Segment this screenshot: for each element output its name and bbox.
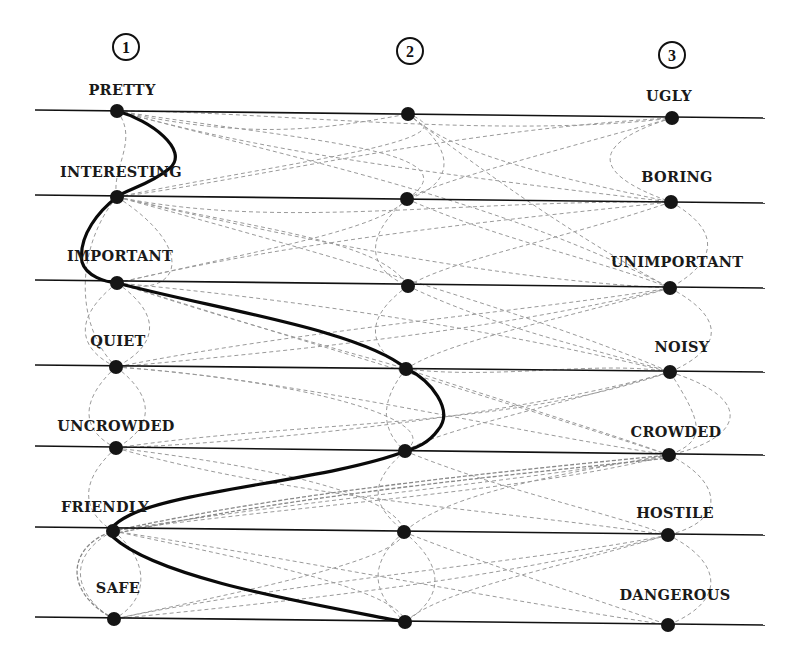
response-curve [116,283,150,367]
left-adjective-label: PRETTY [88,81,156,98]
response-curve [117,283,406,369]
scale-point-dot [663,365,677,379]
response-curve [670,288,711,372]
response-curve [116,111,126,197]
response-curve [113,531,141,619]
response-curve [113,531,668,625]
response-curve [669,372,696,455]
response-curve [116,288,670,367]
response-curve [116,448,668,535]
response-curve [117,118,672,197]
response-curve [406,288,670,369]
response-curve [668,535,711,625]
column-number: 2 [406,43,414,60]
scale-point-dot [401,279,415,293]
response-curve [80,531,114,619]
right-adjective-label: BORING [641,168,712,185]
scale-point-dot [110,104,124,118]
response-curve [117,197,670,288]
scale-point-dot [398,444,412,458]
response-curve [114,532,404,619]
response-curve [404,532,435,622]
column-number-markers: 123 [113,34,685,68]
left-adjective-label: FRIENDLY [61,498,149,515]
response-curve [407,199,670,288]
right-adjective-label: UGLY [646,87,692,104]
semantic-differential-diagram: PRETTYUGLYINTERESTINGBORINGIMPORTANTUNIM… [0,0,789,665]
scale-point-dot [401,107,415,121]
response-curve [89,367,116,448]
right-adjective-label: UNIMPORTANT [611,253,744,270]
response-curve [378,451,405,532]
scale-point-dot [109,360,123,374]
response-curve [117,197,172,286]
scale-point-dot [665,111,679,125]
response-dashed-curves-dark [77,455,669,619]
scale-line [35,280,765,288]
response-curve [670,202,708,288]
right-adjective-label: DANGEROUS [619,586,730,603]
response-curve [117,114,424,197]
scale-point-dot [400,192,414,206]
response-curve [408,202,671,286]
response-curve [85,283,117,367]
response-curve [116,367,669,455]
scale-point-dot [399,362,413,376]
scale-point-dot [110,190,124,204]
response-curve [386,369,406,451]
response-curve [405,535,668,622]
scale-point-dot [110,276,124,290]
response-curve [117,111,424,199]
left-adjective-label: INTERESTING [60,163,182,180]
response-curve [116,288,670,367]
scale-point-dot [664,195,678,209]
scale-point-dot [106,524,120,538]
scale-point-dot [662,448,676,462]
scale-point-dot [398,615,412,629]
left-adjective-label: UNCROWDED [57,417,174,434]
response-curve [375,286,408,369]
scale-point-dot [107,612,121,626]
response-curve [116,448,404,532]
right-adjective-label: HOSTILE [636,504,714,521]
scale-point-dot [397,525,411,539]
left-adjective-label: SAFE [96,579,140,596]
left-adjective-label: QUIET [90,332,145,349]
scale-point-dot [109,441,123,455]
response-curve [407,118,672,199]
response-curve [668,455,711,535]
response-curve [610,118,672,202]
response-curve [404,532,668,625]
column-number: 1 [122,39,130,56]
scale-point-dot [661,618,675,632]
response-curve [408,286,670,372]
response-curve [116,367,413,451]
right-adjective-label: NOISY [655,338,710,355]
scale-point-dot [663,281,677,295]
column-number: 3 [668,47,676,64]
right-adjective-label: CROWDED [631,423,722,440]
response-curve [375,199,408,286]
response-curve [113,531,405,622]
left-adjective-label: IMPORTANT [67,247,173,264]
scale-point-dot [661,528,675,542]
response-curve [89,448,116,531]
response-curve [408,114,671,202]
response-curve [406,369,669,455]
response-curve [116,367,145,448]
response-curve [404,455,669,532]
